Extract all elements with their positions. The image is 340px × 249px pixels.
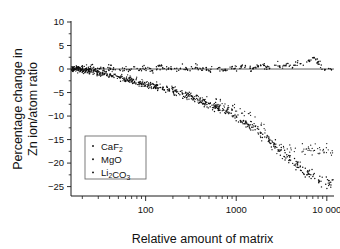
data-point	[132, 83, 133, 84]
data-point	[92, 71, 93, 72]
data-point	[241, 122, 242, 123]
data-point	[325, 184, 326, 185]
data-point	[221, 69, 222, 70]
data-point	[124, 78, 125, 79]
data-point	[252, 124, 253, 125]
data-point	[196, 95, 197, 96]
data-point	[301, 151, 302, 152]
data-point	[149, 85, 150, 86]
data-point	[300, 63, 301, 64]
data-point	[302, 172, 303, 173]
data-point	[219, 67, 220, 68]
data-point	[95, 70, 96, 71]
data-point	[228, 105, 229, 106]
data-point	[151, 70, 152, 71]
data-point	[331, 69, 332, 70]
data-point	[96, 75, 97, 76]
data-point	[293, 65, 294, 66]
data-point	[205, 103, 206, 104]
legend-label-1: MgO	[101, 154, 122, 165]
data-point	[151, 84, 152, 85]
data-point	[131, 68, 132, 69]
data-point	[234, 114, 235, 115]
data-point	[244, 111, 245, 112]
data-point	[257, 66, 258, 67]
data-point	[265, 129, 266, 130]
data-point	[254, 116, 255, 117]
data-point	[160, 87, 161, 88]
data-point	[127, 79, 128, 80]
data-point	[110, 65, 111, 66]
data-point	[181, 92, 182, 93]
data-point	[151, 88, 152, 89]
data-point	[239, 68, 240, 69]
data-point	[141, 70, 142, 71]
data-point	[218, 110, 219, 111]
data-point	[210, 103, 211, 104]
y-tick-label: 10	[53, 16, 64, 27]
data-point	[108, 64, 109, 65]
data-point	[97, 67, 98, 68]
y-tick-label: 5	[59, 40, 64, 51]
data-point	[318, 64, 319, 65]
data-point	[309, 176, 310, 177]
data-point	[250, 129, 251, 130]
data-point	[264, 63, 265, 64]
data-point	[255, 66, 256, 67]
data-point	[208, 103, 209, 104]
data-point	[79, 67, 80, 68]
data-point	[280, 150, 281, 151]
data-point	[206, 96, 207, 97]
data-point	[234, 104, 235, 105]
data-point	[144, 82, 145, 83]
data-point	[247, 126, 248, 127]
data-point	[326, 176, 327, 177]
data-point	[206, 102, 207, 103]
data-point	[226, 69, 227, 70]
data-point	[142, 85, 143, 86]
data-point	[122, 70, 123, 71]
data-point	[210, 72, 211, 73]
data-point	[122, 80, 123, 81]
data-point	[331, 155, 332, 156]
data-point	[330, 186, 331, 187]
data-point	[321, 186, 322, 187]
data-point	[186, 99, 187, 100]
data-point	[320, 67, 321, 68]
data-point	[295, 148, 296, 149]
data-point	[328, 182, 329, 183]
data-point	[256, 64, 257, 65]
data-point	[282, 65, 283, 66]
data-point	[313, 150, 314, 151]
data-point	[155, 84, 156, 85]
data-point	[84, 66, 85, 67]
data-point	[285, 63, 286, 64]
data-point	[219, 112, 220, 113]
data-point	[268, 141, 269, 142]
data-point	[113, 77, 114, 78]
data-point	[274, 146, 275, 147]
data-point	[321, 69, 322, 70]
data-point	[315, 143, 316, 144]
data-point	[226, 112, 227, 113]
y-tick-label: −5	[53, 87, 64, 98]
data-point	[249, 128, 250, 129]
data-point	[152, 88, 153, 89]
data-point	[93, 67, 94, 68]
data-point	[223, 110, 224, 111]
data-point	[168, 69, 169, 70]
data-point	[294, 151, 295, 152]
data-point	[250, 66, 251, 67]
data-point	[234, 68, 235, 69]
data-point	[277, 61, 278, 62]
data-point	[252, 129, 253, 130]
y-axis-title-line2: Zn ion/atom ratio	[26, 62, 40, 156]
data-point	[144, 69, 145, 70]
data-point	[277, 150, 278, 151]
data-point	[80, 71, 81, 72]
data-point	[238, 121, 239, 122]
data-point	[315, 59, 316, 60]
data-point	[148, 82, 149, 83]
data-point	[214, 105, 215, 106]
data-point	[245, 126, 246, 127]
